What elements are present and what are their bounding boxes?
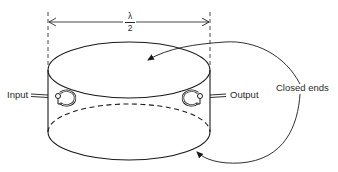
dimension-label: λ 2 xyxy=(124,12,136,32)
top-end-ellipse xyxy=(48,42,210,98)
closed-ends-leaders xyxy=(148,42,300,163)
bottom-end-back-dashed xyxy=(48,104,210,132)
output-coupling-loop xyxy=(183,91,226,106)
input-label: Input xyxy=(7,90,28,100)
dimension-denominator: 2 xyxy=(124,24,136,33)
bottom-end-front xyxy=(48,132,210,160)
leader-to-top-end xyxy=(148,42,300,84)
input-coupling-loop xyxy=(31,91,75,106)
cylinder-body xyxy=(48,42,210,160)
leader-to-bottom-end xyxy=(197,94,300,163)
dimension-numerator: λ xyxy=(124,12,136,21)
closed-ends-label: Closed ends xyxy=(276,83,329,93)
output-label: Output xyxy=(230,90,259,100)
